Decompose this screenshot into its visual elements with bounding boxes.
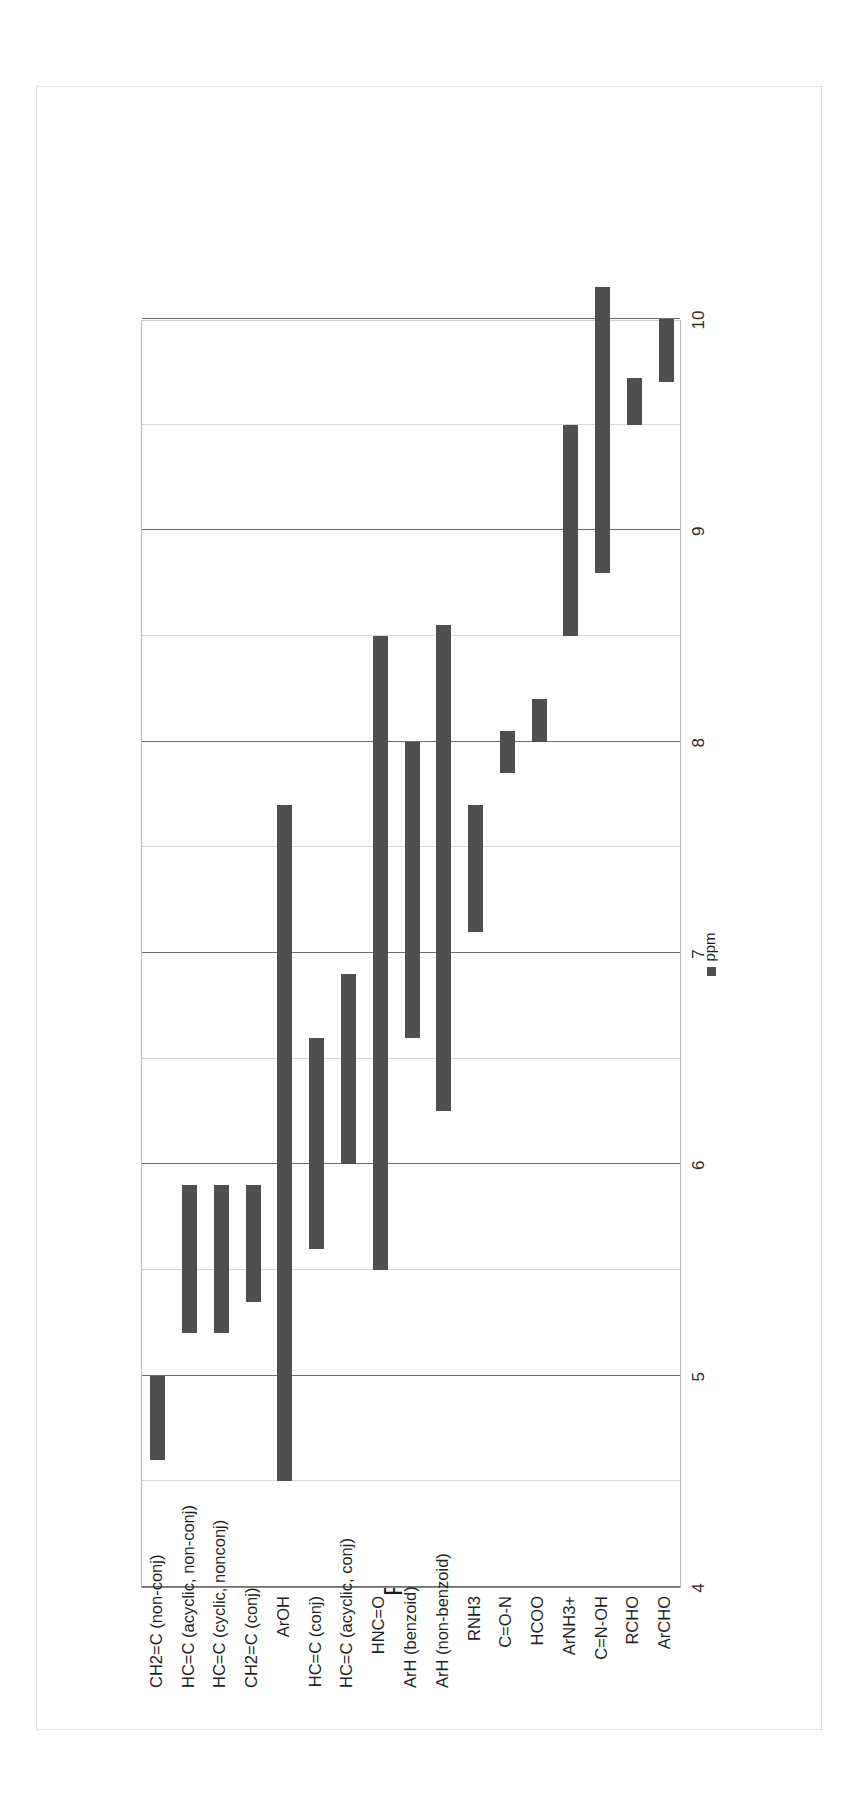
category-label: ArH (non-benzoid) (433, 1596, 452, 1688)
gridline-6 (142, 1163, 680, 1164)
category-label: HC=C (cyclic, nonconj) (210, 1596, 229, 1688)
rotated-chart-stage: Proton Chemical Shift CH2=C (non-conj)HC… (79, 128, 779, 1688)
category-label: RNH3 (465, 1596, 484, 1688)
category-label: HC=C (acyclic, non-conj) (179, 1596, 198, 1688)
gridline-5 (142, 1375, 680, 1376)
category-label: ArCHO (655, 1596, 674, 1688)
category-label: ArH (benzoid) (401, 1596, 420, 1688)
bar-range (532, 699, 547, 741)
bar-range (214, 1185, 229, 1333)
bar-range (309, 1038, 324, 1249)
bar-range (405, 742, 420, 1038)
category-label: HC=C (acyclic, conj) (337, 1596, 356, 1688)
category-label: C=N-OH (592, 1596, 611, 1688)
bar-range (182, 1185, 197, 1333)
category-label: RCHO (623, 1596, 642, 1688)
bar-range (373, 636, 388, 1270)
gridline-8-5 (142, 635, 680, 636)
bar-range (659, 319, 674, 382)
category-label: CH2=C (conj) (242, 1596, 261, 1688)
bar-range (436, 625, 451, 1111)
bar-range (246, 1185, 261, 1301)
gridline-4-5 (142, 1480, 680, 1481)
bar-range (277, 805, 292, 1481)
chart-legend: ppm (701, 320, 719, 1588)
chart-figure-card: Proton Chemical Shift CH2=C (non-conj)HC… (36, 86, 822, 1730)
category-label: HC=C (conj) (306, 1596, 325, 1688)
bar-range (563, 425, 578, 636)
category-label: HCOO (528, 1596, 547, 1688)
plot-area (141, 320, 681, 1588)
category-label: ArNH3+ (560, 1596, 579, 1688)
bar-range (500, 731, 515, 773)
legend-swatch-ppm (707, 967, 716, 976)
bar-range (150, 1376, 165, 1461)
bar-range (341, 974, 356, 1164)
bar-range (468, 805, 483, 932)
category-label: HNC=O (369, 1596, 388, 1688)
category-label: C=O-N (496, 1596, 515, 1688)
bar-range (595, 287, 610, 572)
category-label: ArOH (274, 1596, 293, 1688)
category-label: CH2=C (non-conj) (147, 1596, 166, 1688)
legend-label-ppm: ppm (701, 932, 718, 961)
page-root: Proton Chemical Shift CH2=C (non-conj)HC… (0, 0, 859, 1816)
bar-range (627, 378, 642, 424)
gridline-6-5 (142, 1058, 680, 1059)
